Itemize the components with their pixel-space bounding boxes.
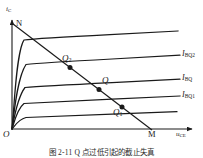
figure-caption: 图 2-11 Q 点过低引起的截止失真	[0, 146, 203, 157]
load-line-endpoint-n-label: N	[16, 19, 22, 28]
x-axis-label: uCE	[176, 131, 186, 138]
q2-point-label: Q2	[62, 54, 72, 63]
transistor-output-characteristics-figure: iC uCE O N M Q2 Q Q1 IBQ2 IBQ IBQ1 图 2-1…	[0, 0, 203, 158]
ibq-curve-label: IBQ	[182, 74, 192, 82]
characteristic-curve-bottom	[12, 112, 177, 129]
origin-label: O	[3, 130, 10, 139]
load-line-endpoint-m-label: M	[148, 130, 156, 139]
ibq1-curve-label: IBQ1	[182, 91, 195, 99]
q1-point-label: Q1	[113, 108, 123, 117]
dc-load-line	[13, 24, 152, 130]
ibq2-curve-label: IBQ2	[182, 50, 195, 58]
y-axis-label: iC	[6, 6, 11, 13]
characteristic-curve-ibq2	[12, 55, 180, 129]
q-point-label: Q	[102, 76, 109, 85]
q2-point-marker	[68, 65, 73, 70]
q-point-marker	[97, 87, 102, 92]
